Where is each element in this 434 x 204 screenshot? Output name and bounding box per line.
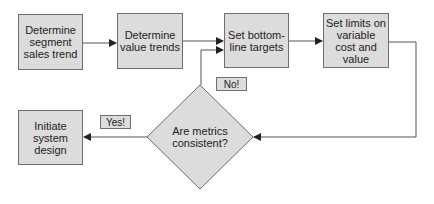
decision-metrics-consistent: Are metrics consistent?: [160, 117, 240, 157]
node-set-limits-variable-cost-value: Set limits on variable cost and value: [323, 13, 389, 68]
node-set-bottom-line-targets: Set bottom-line targets: [224, 13, 289, 68]
node-determine-value-trends: Determine value trends: [117, 13, 183, 69]
node-label: Determine value trends: [120, 29, 180, 53]
flowchart-canvas: Determine segment sales trend Determine …: [0, 0, 434, 204]
node-label: Set bottom-line targets: [227, 29, 286, 53]
node-label: Initiate system design: [21, 120, 80, 156]
edge-label-yes: Yes!: [100, 115, 131, 129]
node-label: Set limits on variable cost and value: [326, 17, 386, 65]
decision-label: Are metrics consistent?: [160, 125, 240, 149]
node-initiate-system-design: Initiate system design: [18, 110, 83, 165]
node-label: Determine segment sales trend: [21, 24, 80, 60]
edge-label-no: No!: [216, 77, 247, 91]
yes-label-text: Yes!: [106, 117, 125, 128]
node-determine-segment-sales-trend: Determine segment sales trend: [18, 14, 83, 70]
no-label-text: No!: [224, 79, 240, 90]
